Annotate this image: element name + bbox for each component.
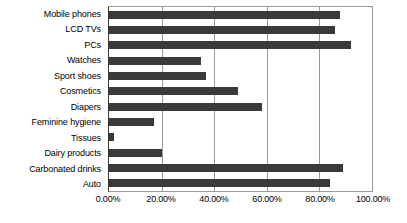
bar-row [109,130,372,145]
axis-tick-label: 100.00% [356,194,390,205]
bar-row [109,38,372,53]
category-label: Tissues [0,130,105,146]
category-label: Feminine hygiene [0,115,105,131]
bar [109,41,351,49]
bar [109,87,238,95]
bar [109,149,162,157]
bar-chart: Mobile phones LCD TVs PCs Watches Sport … [0,0,407,223]
axis-tick-label: 60.00% [252,194,281,205]
bar [109,118,154,126]
axis-tick-label: 40.00% [199,194,228,205]
category-label: Cosmetics [0,84,105,100]
category-label: Sport shoes [0,68,105,84]
bar [109,103,262,111]
bar-row [109,53,372,68]
bar [109,164,343,172]
bar [109,179,330,187]
bar [109,57,201,65]
bar-row [109,22,372,37]
gridline [372,7,373,191]
bar-row [109,99,372,114]
category-axis: Mobile phones LCD TVs PCs Watches Sport … [0,6,105,192]
category-label: Watches [0,53,105,69]
value-axis: 0.00%20.00%40.00%60.00%80.00%100.00% [108,194,373,210]
bar [109,26,335,34]
category-label: Dairy products [0,146,105,162]
bar-row [109,68,372,83]
axis-tick-label: 0.00% [96,194,121,205]
axis-tick-label: 80.00% [305,194,334,205]
bar-row [109,176,372,191]
bar-row [109,84,372,99]
category-label: LCD TVs [0,22,105,38]
bar [109,133,114,141]
plot-area [108,6,373,192]
bar-row [109,145,372,160]
bar-row [109,7,372,22]
bar-row [109,160,372,175]
bar [109,11,340,19]
category-label: PCs [0,37,105,53]
category-label: Mobile phones [0,6,105,22]
bar-row [109,114,372,129]
category-label: Diapers [0,99,105,115]
bar-series [109,7,372,191]
category-label: Carbonated drinks [0,161,105,177]
bar [109,72,206,80]
axis-tick-label: 20.00% [146,194,175,205]
category-label: Auto [0,177,105,193]
